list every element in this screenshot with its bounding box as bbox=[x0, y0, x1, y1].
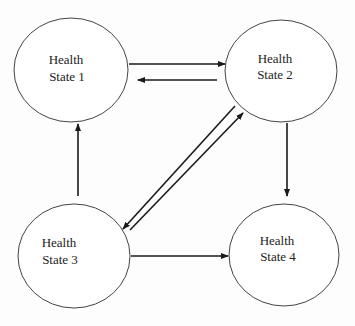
node-health-state-3: Health State 3 bbox=[18, 204, 130, 308]
node-label-line2: State 4 bbox=[260, 249, 296, 264]
edge-s2-to-s3 bbox=[123, 106, 235, 229]
node-label-line1: Health bbox=[42, 235, 77, 250]
node-health-state-2: Health State 2 bbox=[225, 20, 337, 122]
node-health-state-1: Health State 1 bbox=[14, 18, 128, 122]
node-label-line1: Health bbox=[260, 233, 295, 248]
node-health-state-4: Health State 4 bbox=[229, 204, 339, 306]
node-label-line2: State 1 bbox=[49, 69, 85, 84]
node-label-line1: Health bbox=[49, 52, 84, 67]
edge-s3-to-s2 bbox=[130, 113, 243, 230]
node-label-line1: Health bbox=[258, 51, 293, 66]
node-label-line2: State 2 bbox=[257, 67, 293, 82]
state-diagram: Health State 1 Health State 2 Health Sta… bbox=[0, 0, 355, 326]
node-label-line2: State 3 bbox=[42, 252, 78, 267]
diagram-canvas: Health State 1 Health State 2 Health Sta… bbox=[0, 0, 355, 326]
